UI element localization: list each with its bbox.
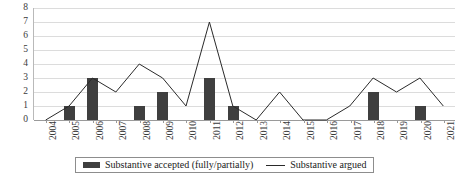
y-axis-tick-label: 2 bbox=[23, 87, 28, 97]
chart-legend: Substantive accepted (fully/partially) S… bbox=[75, 157, 374, 173]
y-axis-tick-label: 8 bbox=[23, 3, 28, 13]
y-axis-tick-label: 0 bbox=[23, 115, 28, 125]
x-axis-tick-label: 2017 bbox=[354, 121, 364, 140]
chart-figure: 876543210 200420052006200720082009201020… bbox=[0, 0, 469, 184]
x-axis-tick-label: 2006 bbox=[96, 121, 106, 140]
x-axis-tick-label: 2009 bbox=[166, 121, 176, 140]
legend-item-substantive-accepted: Substantive accepted (fully/partially) bbox=[83, 160, 253, 170]
x-axis-tick-label: 2014 bbox=[283, 121, 293, 140]
x-axis-tick-label: 2005 bbox=[72, 121, 82, 140]
x-axis-tick-label: 2012 bbox=[236, 121, 246, 140]
x-axis-tick-label: 2018 bbox=[377, 121, 387, 140]
y-axis-tick-label: 3 bbox=[23, 73, 28, 83]
bar-swatch-icon bbox=[83, 162, 100, 168]
x-axis-tick-label: 2016 bbox=[330, 121, 340, 140]
x-axis-tick-label: 2015 bbox=[307, 121, 317, 140]
x-axis-tick-label: 2011 bbox=[213, 121, 223, 140]
x-axis-tick-label: 2020 bbox=[424, 121, 434, 140]
line-swatch-icon bbox=[266, 165, 285, 166]
x-axis-tick-label: 2004 bbox=[49, 121, 59, 140]
x-axis-tick-label: 2007 bbox=[119, 121, 129, 140]
plot-wrapper: 876543210 200420052006200720082009201020… bbox=[0, 0, 469, 131]
x-axis-tick-label: 2019 bbox=[400, 121, 410, 140]
x-axis-tick-label: 2013 bbox=[260, 121, 270, 140]
x-axis-tick-marks bbox=[34, 8, 455, 120]
y-axis-tick-label: 4 bbox=[23, 59, 28, 69]
y-axis-tick-label: 1 bbox=[23, 101, 28, 111]
plot-area bbox=[33, 8, 455, 120]
legend-label-substantive-accepted: Substantive accepted (fully/partially) bbox=[105, 160, 253, 170]
y-axis-tick-label: 7 bbox=[23, 17, 28, 27]
y-axis-tick-label: 6 bbox=[23, 31, 28, 41]
legend-label-substantive-argued: Substantive argued bbox=[290, 160, 366, 170]
x-axis-tick-label: 2021 bbox=[447, 121, 457, 140]
x-axis-tick-label: 2008 bbox=[143, 121, 153, 140]
legend-item-substantive-argued: Substantive argued bbox=[266, 160, 366, 170]
x-axis-tick-label: 2010 bbox=[189, 121, 199, 140]
y-axis-labels: 876543210 bbox=[12, 8, 28, 120]
y-axis-tick-label: 5 bbox=[23, 45, 28, 55]
x-axis-labels: 2004200520062007200820092010201120122013… bbox=[33, 121, 455, 153]
